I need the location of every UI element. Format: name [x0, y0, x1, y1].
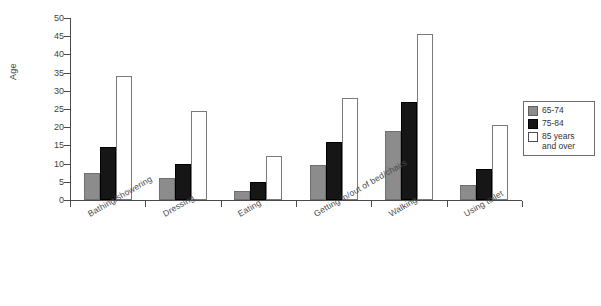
y-tick-label: 15 — [42, 140, 64, 150]
legend-label-65-74: 65-74 — [542, 105, 564, 115]
legend-swatch-85-and-over — [528, 132, 538, 142]
x-tick — [221, 201, 222, 207]
legend-label-85-and-over: 85 yearsand over — [542, 131, 575, 151]
figure-caption — [6, 298, 476, 306]
legend-swatch-65-74 — [528, 106, 538, 116]
y-axis-title: Age — [8, 20, 18, 80]
x-tick — [447, 201, 448, 207]
x-tick — [371, 201, 372, 207]
y-tick-label: 20 — [42, 122, 64, 132]
y-tick-label: 5 — [42, 177, 64, 187]
x-tick — [522, 201, 523, 207]
bar — [84, 173, 100, 200]
chart-canvas: Age 05101520253035404550 Bathing/showeri… — [0, 0, 601, 306]
bar — [159, 178, 175, 200]
y-tick-label: 45 — [42, 31, 64, 41]
bar — [310, 165, 326, 200]
y-tick-label: 30 — [42, 86, 64, 96]
bar — [100, 147, 116, 200]
legend-item: 65-74 — [528, 105, 590, 116]
x-tick — [145, 201, 146, 207]
legend-swatch-75-84 — [528, 119, 538, 129]
legend-label-75-84: 75-84 — [542, 118, 564, 128]
y-tick-label: 40 — [42, 49, 64, 59]
y-tick-label: 0 — [42, 195, 64, 205]
legend-item: 85 yearsand over — [528, 131, 590, 151]
bar — [401, 102, 417, 200]
bar — [326, 142, 342, 200]
legend: 65-74 75-84 85 yearsand over — [523, 101, 595, 156]
bar — [250, 182, 266, 200]
bar — [266, 156, 282, 200]
y-tick-label: 10 — [42, 159, 64, 169]
bar — [191, 111, 207, 200]
y-tick-label: 50 — [42, 13, 64, 23]
bar — [116, 76, 132, 200]
x-tick — [70, 201, 71, 207]
x-tick — [296, 201, 297, 207]
bar — [417, 34, 433, 200]
legend-item: 75-84 — [528, 118, 590, 129]
plot-area — [70, 18, 522, 200]
bar — [234, 191, 250, 200]
y-tick-label: 35 — [42, 68, 64, 78]
y-tick-label: 25 — [42, 104, 64, 114]
bar — [460, 185, 476, 200]
